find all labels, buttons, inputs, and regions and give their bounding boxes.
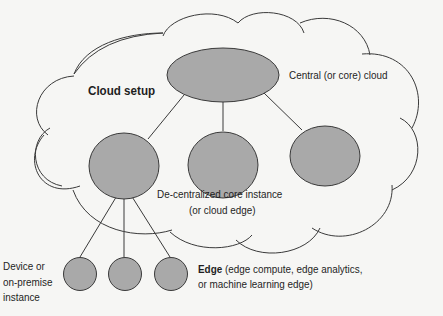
edge-label-bold: Edge — [198, 263, 222, 275]
edge-node-1 — [64, 258, 97, 291]
cloud-setup-label: Cloud setup — [88, 83, 155, 99]
edge-label-line2: or machine learning edge) — [198, 277, 313, 291]
device-label-line2: on-premise — [3, 275, 52, 289]
central-cloud-label: Central (or core) cloud — [289, 68, 387, 82]
central-cloud-node — [167, 48, 279, 102]
edge-label-rest: (edge compute, edge analytics, — [222, 263, 362, 275]
cloud-edge-diagram: Cloud setup Central (or core) cloud De-c… — [0, 0, 443, 316]
core-instance-node-3 — [290, 126, 360, 186]
core-instance-node-1 — [89, 133, 159, 199]
device-label-line3: instance — [3, 290, 40, 304]
decentralized-label-line1: De-centralized core instance — [157, 187, 282, 201]
edge-node-3 — [155, 258, 188, 291]
decentralized-label-line2: (or cloud edge) — [189, 203, 256, 217]
edge-node-2 — [109, 258, 142, 291]
device-label-line1: Device or — [3, 259, 45, 273]
edge-label-line1: Edge (edge compute, edge analytics, — [198, 262, 362, 276]
